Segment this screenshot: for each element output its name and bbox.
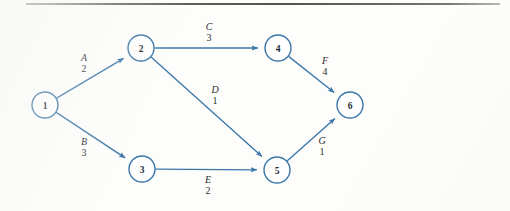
edge-duration-G: 1 [318,147,325,158]
edge-duration-C: 3 [206,33,213,44]
node-label-3: 3 [140,165,145,175]
node-label-6: 6 [348,101,353,111]
edges-layer [56,48,335,170]
edge-A [57,58,124,98]
edge-D [151,57,262,156]
edge-label-A: A2 [81,53,87,74]
edge-label-B: B3 [81,137,87,158]
node-label-2: 2 [139,44,144,54]
node-label-5: 5 [275,166,280,176]
edge-activity-name-B: B [81,137,87,148]
edge-activity-name-G: G [318,136,325,147]
edge-label-C: C3 [206,22,213,43]
edge-label-D: D1 [211,85,218,106]
edge-duration-A: 2 [81,64,87,75]
edge-activity-name-E: E [205,175,211,186]
edge-duration-E: 2 [205,186,211,197]
edge-G [287,118,335,161]
diagram-screenshot: 123456 A2B3C3D1E2F4G1 [0,0,510,211]
edge-B [56,112,125,157]
node-label-4: 4 [276,44,281,54]
edge-label-E: E2 [205,175,211,196]
edge-duration-D: 1 [211,96,218,107]
edge-label-F: F4 [322,56,328,77]
edge-label-G: G1 [318,136,325,157]
edge-activity-name-A: A [81,53,87,64]
edge-activity-name-D: D [211,85,218,96]
edge-activity-name-F: F [322,56,328,67]
edge-activity-name-C: C [206,22,213,33]
edge-duration-B: 3 [81,148,87,159]
node-label-1: 1 [43,101,48,111]
edge-duration-F: 4 [322,67,328,78]
edge-E [155,169,256,170]
network-graph-canvas [0,0,510,211]
